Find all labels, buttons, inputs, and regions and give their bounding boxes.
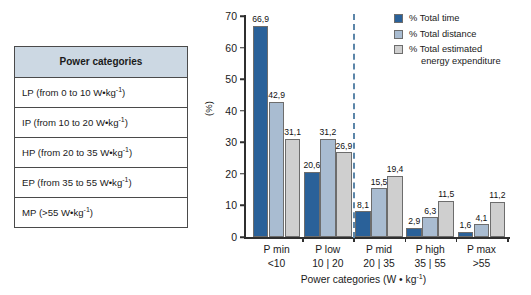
x-category-range: 35 | 55 bbox=[415, 257, 446, 271]
legend-label: % Total estimated bbox=[409, 44, 482, 54]
cell-tail: ) bbox=[129, 147, 132, 158]
table-cell-ip: IP (from 10 to 20 W•kg-1) bbox=[15, 108, 188, 138]
y-axis-tick-label: 50 bbox=[199, 73, 245, 85]
x-category-range: <10 bbox=[264, 257, 290, 271]
bar-p-min-series-0 bbox=[253, 26, 269, 237]
bar-value-label: 19,4 bbox=[387, 164, 404, 174]
table-cell-hp: HP (from 20 to 35 W•kg-1) bbox=[15, 138, 188, 168]
x-axis-line bbox=[244, 237, 510, 239]
table-header-cell: Power categories bbox=[15, 47, 188, 78]
bar-value-label: 31,1 bbox=[284, 127, 301, 137]
table-row: MP (>55 W•kg-1) bbox=[15, 198, 188, 228]
bar-value-label: 20,6 bbox=[303, 160, 320, 170]
x-axis-tick bbox=[302, 237, 304, 242]
bar-value-label: 15,5 bbox=[371, 177, 388, 187]
legend-item-total-time: % Total time bbox=[394, 13, 529, 25]
legend-swatch-icon bbox=[394, 30, 403, 39]
table-row: IP (from 10 to 20 W•kg-1) bbox=[15, 108, 188, 138]
bar-value-label: 8,1 bbox=[357, 200, 369, 210]
cell-tail: ) bbox=[90, 207, 93, 218]
x-axis-tick bbox=[456, 237, 458, 242]
bar-p-max-series-0 bbox=[458, 232, 474, 237]
legend-label: % Total time bbox=[409, 13, 459, 25]
bar-p-high-series-1 bbox=[422, 217, 438, 237]
table-cell-mp: MP (>55 W•kg-1) bbox=[15, 198, 188, 228]
bar-p-mid-series-1 bbox=[371, 188, 387, 237]
bar-p-high-series-0 bbox=[406, 228, 422, 237]
vertical-dashed-divider bbox=[353, 14, 355, 238]
bar-value-label: 6,3 bbox=[424, 206, 436, 216]
cell-tail: ) bbox=[128, 177, 131, 188]
legend-item-total-energy-expenditure: % Total estimatedenergy expenditure bbox=[394, 44, 529, 67]
bar-p-mid-series-0 bbox=[355, 211, 371, 237]
x-category-name: P min bbox=[264, 243, 290, 257]
cell-text: LP (from 0 to 10 W•kg bbox=[22, 87, 116, 98]
cell-tail: ) bbox=[122, 87, 125, 98]
bar-value-label: 26,9 bbox=[335, 141, 352, 151]
x-axis-title-text: Power categories (W • kg bbox=[301, 274, 417, 285]
x-category-range: >55 bbox=[467, 257, 496, 271]
cell-text: HP (from 20 to 35 W•kg bbox=[22, 147, 123, 158]
bar-p-max-series-2 bbox=[490, 202, 506, 237]
table-row: LP (from 0 to 10 W•kg-1) bbox=[15, 78, 188, 108]
x-category-range: 10 | 20 bbox=[312, 257, 343, 271]
legend-swatch-icon bbox=[394, 45, 403, 54]
table-row: EP (from 35 to 55 W•kg-1) bbox=[15, 168, 188, 198]
y-axis-tick-label: 60 bbox=[199, 42, 245, 54]
y-axis-tick-label: 20 bbox=[199, 168, 245, 180]
legend-label: % Total distance bbox=[409, 29, 477, 41]
x-axis-category-p-min: P min<10 bbox=[264, 243, 290, 270]
x-category-name: P low bbox=[312, 243, 343, 257]
bar-value-label: 1,6 bbox=[459, 220, 471, 230]
chart-legend: % Total time % Total distance % Total es… bbox=[394, 13, 529, 71]
bar-value-label: 2,9 bbox=[408, 216, 420, 226]
bar-value-label: 4,1 bbox=[475, 213, 487, 223]
table-row: HP (from 20 to 35 W•kg-1) bbox=[15, 138, 188, 168]
table-body: Power categories LP (from 0 to 10 W•kg-1… bbox=[15, 47, 188, 228]
legend-label-wrap: % Total estimatedenergy expenditure bbox=[409, 44, 501, 67]
x-category-range: 20 | 35 bbox=[363, 257, 394, 271]
x-category-name: P max bbox=[467, 243, 496, 257]
x-axis-title: Power categories (W • kg-1) bbox=[196, 272, 531, 285]
bar-group: 66,942,931,1 bbox=[253, 16, 301, 237]
cell-text: MP (>55 W•kg bbox=[22, 207, 84, 218]
bar-chart: (%) 01020304050607066,942,931,120,631,22… bbox=[196, 0, 531, 295]
bar-value-label: 66,9 bbox=[252, 14, 269, 24]
bar-p-low-series-0 bbox=[304, 172, 320, 237]
x-axis-category-p-mid: P mid20 | 35 bbox=[363, 243, 394, 270]
bar-p-min-series-1 bbox=[269, 102, 285, 237]
bar-value-label: 31,2 bbox=[319, 127, 336, 137]
legend-item-total-distance: % Total distance bbox=[394, 29, 529, 41]
table-header-row: Power categories bbox=[15, 47, 188, 78]
x-axis-title-tail: ) bbox=[423, 274, 426, 285]
y-axis-tick-label: 0 bbox=[199, 231, 245, 243]
x-axis-category-p-high: P high35 | 55 bbox=[415, 243, 446, 270]
table-cell-ep: EP (from 35 to 55 W•kg-1) bbox=[15, 168, 188, 198]
cell-text: IP (from 10 to 20 W•kg bbox=[22, 117, 119, 128]
y-axis-tick-label: 70 bbox=[199, 10, 245, 22]
cell-text: EP (from 35 to 55 W•kg bbox=[22, 177, 122, 188]
x-axis-category-p-low: P low10 | 20 bbox=[312, 243, 343, 270]
x-axis-tick bbox=[405, 237, 407, 242]
table-cell-lp: LP (from 0 to 10 W•kg-1) bbox=[15, 78, 188, 108]
x-axis-category-p-max: P max>55 bbox=[467, 243, 496, 270]
bar-group: 20,631,226,9 bbox=[304, 16, 352, 237]
legend-label-line2: energy expenditure bbox=[409, 56, 501, 68]
bar-p-mid-series-2 bbox=[387, 176, 403, 237]
x-category-name: P mid bbox=[363, 243, 394, 257]
bar-p-low-series-2 bbox=[336, 152, 352, 237]
power-categories-table: Power categories LP (from 0 to 10 W•kg-1… bbox=[14, 46, 188, 228]
bar-p-min-series-2 bbox=[285, 139, 301, 237]
bar-p-low-series-1 bbox=[320, 139, 336, 238]
y-axis-tick-label: 40 bbox=[199, 105, 245, 117]
legend-swatch-icon bbox=[394, 14, 403, 23]
y-axis-tick-label: 10 bbox=[199, 199, 245, 211]
x-category-name: P high bbox=[415, 243, 446, 257]
bar-value-label: 11,5 bbox=[438, 189, 454, 199]
figure-root: Power categories LP (from 0 to 10 W•kg-1… bbox=[0, 0, 531, 295]
bar-p-high-series-2 bbox=[438, 201, 454, 237]
bar-p-max-series-1 bbox=[474, 224, 490, 237]
y-axis-tick-label: 30 bbox=[199, 136, 245, 148]
bar-value-label: 11,2 bbox=[489, 190, 505, 200]
x-axis-tick bbox=[507, 237, 509, 242]
